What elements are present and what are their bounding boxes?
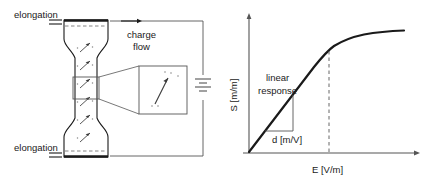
battery-symbol-icon: [195, 79, 211, 91]
inset-magnified-box: [139, 66, 187, 114]
double-line-marker-icon: [49, 153, 62, 157]
linear-response-label-line1: linear: [266, 72, 289, 83]
slope-label: d [m/V]: [272, 134, 302, 145]
strain-vs-field-chart: linear response d [m/V] E [V/m] S [m/m]: [228, 13, 420, 175]
elongation-top-label: elongation: [14, 9, 58, 20]
double-line-marker-icon: [49, 20, 62, 24]
elongation-bottom-label: elongation: [14, 142, 58, 153]
y-axis: [247, 13, 252, 153]
x-axis-label: E [V/m]: [312, 164, 343, 175]
figure-root: elongation elongation charge flow: [0, 0, 428, 182]
arrow-right-icon: [121, 19, 142, 23]
charge-flow-label-line2: flow: [133, 41, 150, 52]
linear-response-label-line2: response: [258, 85, 297, 96]
charge-flow-label-line1: charge: [127, 29, 156, 40]
x-axis: [243, 151, 420, 156]
magnifier-callout-icon: [99, 66, 139, 114]
figure-canvas: elongation elongation charge flow: [0, 0, 428, 182]
piezoelectric-specimen-circuit: elongation elongation charge flow: [14, 9, 211, 157]
y-axis-label: S [m/m]: [228, 79, 239, 112]
